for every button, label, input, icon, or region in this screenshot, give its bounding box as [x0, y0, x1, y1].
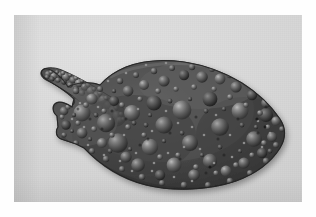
specimen-artwork	[14, 15, 302, 202]
screenshot-root: holothurian-body	[0, 0, 316, 217]
photo-plate	[14, 15, 302, 202]
specimen-svg	[14, 15, 302, 202]
